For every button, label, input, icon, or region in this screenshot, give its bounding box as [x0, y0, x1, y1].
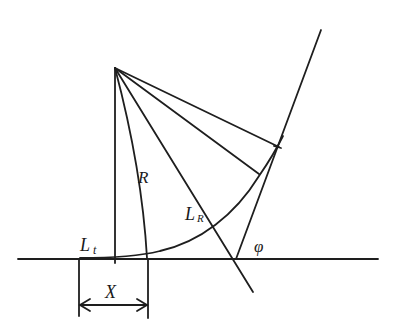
diagram-canvas: R L R L t φ X	[0, 0, 402, 328]
label-X: X	[104, 282, 117, 302]
label-R: R	[137, 168, 149, 187]
tick-mark	[274, 146, 281, 148]
label-Lt-main: L	[79, 235, 90, 255]
label-phi: φ	[254, 237, 263, 256]
radial-line-2	[115, 68, 259, 174]
label-LR-sub: R	[196, 212, 204, 224]
label-LR-main: L	[184, 204, 195, 224]
label-Lt-sub: t	[93, 243, 97, 257]
radius-line-R	[115, 68, 147, 258]
transition-curve	[80, 136, 283, 258]
